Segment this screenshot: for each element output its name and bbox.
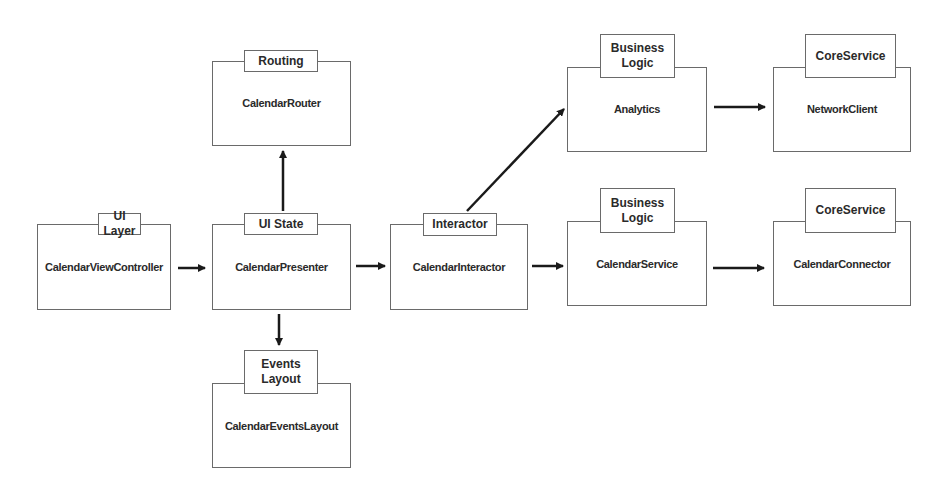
module-name: CalendarInteractor — [391, 261, 527, 273]
layer-tab-core-service: CoreService — [805, 188, 896, 233]
module-name: CalendarConnector — [774, 258, 910, 270]
layer-tab-interactor: Interactor — [423, 213, 497, 236]
layer-tab-business-logic: Business Logic — [600, 34, 675, 78]
module-name: CalendarPresenter — [213, 261, 350, 273]
module-name: Analytics — [568, 103, 706, 115]
layer-tab-ui-layer: UI Layer — [98, 213, 141, 235]
layer-tab-ui-state: UI State — [244, 213, 318, 235]
module-calendar-presenter: CalendarPresenter — [212, 224, 351, 310]
module-calendar-connector: CalendarConnector — [773, 221, 911, 306]
layer-tab-business-logic: Business Logic — [600, 188, 675, 233]
module-analytics: Analytics — [567, 67, 707, 152]
module-network-client: NetworkClient — [773, 67, 911, 152]
module-name: CalendarViewController — [38, 261, 170, 273]
module-name: CalendarService — [568, 258, 706, 270]
layer-tab-events-layout: Events Layout — [244, 350, 318, 394]
module-calendar-interactor: CalendarInteractor — [390, 224, 528, 310]
module-calendar-service: CalendarService — [567, 221, 707, 306]
module-name: CalendarRouter — [213, 97, 350, 109]
architecture-diagram: CalendarViewController UI Layer Calendar… — [0, 0, 945, 496]
module-name: NetworkClient — [774, 103, 910, 115]
module-calendar-router: CalendarRouter — [212, 61, 351, 146]
arrow-interactor-to-analytics — [467, 109, 564, 211]
layer-tab-core-service: CoreService — [805, 34, 896, 78]
module-name: CalendarEventsLayout — [213, 420, 350, 432]
layer-tab-routing: Routing — [244, 50, 318, 72]
module-calendar-events-layout: CalendarEventsLayout — [212, 383, 351, 468]
